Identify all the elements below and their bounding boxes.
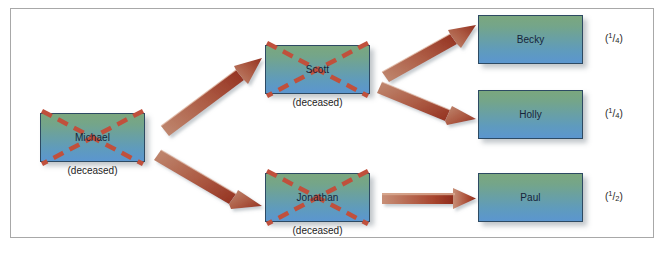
share-label-becky: (1/4) bbox=[605, 33, 623, 44]
arrow-jonathan-to-paul bbox=[382, 188, 476, 209]
share-numerator-holly: 1 bbox=[608, 106, 612, 115]
person-box-jonathan: Jonathan bbox=[265, 173, 370, 222]
share-label-paul: (1/2) bbox=[605, 191, 623, 202]
person-node-holly[interactable]: Holly bbox=[478, 90, 583, 139]
person-node-michael[interactable]: Michael (deceased) bbox=[40, 113, 145, 162]
arrow-michael-to-scott bbox=[161, 58, 262, 136]
person-name-scott: Scott bbox=[306, 64, 329, 75]
share-numerator-paul: 1 bbox=[608, 189, 612, 198]
person-node-jonathan[interactable]: Jonathan (deceased) bbox=[265, 173, 370, 222]
person-node-scott[interactable]: Scott (deceased) bbox=[265, 45, 370, 94]
person-name-paul: Paul bbox=[520, 192, 540, 203]
person-box-paul: Paul bbox=[478, 173, 583, 222]
person-node-paul[interactable]: Paul bbox=[478, 173, 583, 222]
person-node-becky[interactable]: Becky bbox=[478, 15, 583, 64]
inheritance-diagram: Michael (deceased) Scott (deceased) Jona… bbox=[0, 0, 664, 255]
share-denominator-holly: 4 bbox=[615, 111, 619, 120]
person-box-michael: Michael bbox=[40, 113, 145, 162]
person-name-becky: Becky bbox=[517, 34, 545, 45]
person-name-jonathan: Jonathan bbox=[297, 192, 339, 203]
arrow-scott-to-becky bbox=[382, 25, 476, 82]
share-denominator-paul: 2 bbox=[615, 194, 619, 203]
person-box-becky: Becky bbox=[478, 15, 583, 64]
person-name-holly: Holly bbox=[519, 109, 542, 120]
deceased-label-michael: (deceased) bbox=[40, 165, 145, 176]
person-name-michael: Michael bbox=[75, 132, 110, 143]
share-denominator-becky: 4 bbox=[615, 36, 619, 45]
deceased-label-scott: (deceased) bbox=[265, 97, 370, 108]
arrow-scott-to-holly bbox=[377, 82, 476, 125]
share-label-holly: (1/4) bbox=[605, 108, 623, 119]
person-box-scott: Scott bbox=[265, 45, 370, 94]
deceased-label-jonathan: (deceased) bbox=[265, 225, 370, 236]
share-numerator-becky: 1 bbox=[608, 31, 612, 40]
arrow-michael-to-jonathan bbox=[154, 150, 262, 209]
person-box-holly: Holly bbox=[478, 90, 583, 139]
